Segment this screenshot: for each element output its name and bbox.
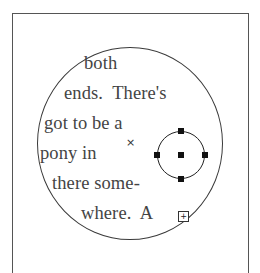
handle-top[interactable]	[178, 128, 184, 134]
text-line-5: there some-	[52, 174, 140, 193]
text-line-2: ends. There's	[64, 84, 167, 103]
text-line-4: pony in	[40, 144, 97, 163]
text-line-6: where. A	[81, 204, 153, 223]
text-line-1: both	[84, 54, 117, 73]
text-overflow-plus-icon[interactable]: +	[178, 211, 189, 222]
center-x-icon: ×	[126, 137, 135, 148]
handle-right[interactable]	[202, 152, 208, 158]
handle-left[interactable]	[154, 152, 160, 158]
text-line-3: got to be a	[44, 114, 123, 133]
handle-bottom[interactable]	[178, 176, 184, 182]
handle-center[interactable]	[178, 152, 184, 158]
